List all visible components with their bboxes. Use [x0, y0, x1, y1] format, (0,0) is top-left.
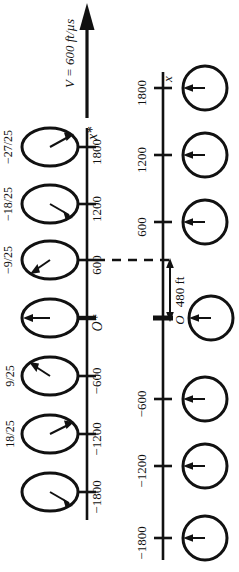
velocity-arrow [80, 3, 95, 118]
unprimed-axis-label: x [160, 76, 175, 83]
unprimed-tick-600: 600 [134, 200, 227, 244]
primed-tick-1200: 1200 −18/25 [1, 185, 104, 223]
primed-fraction-minus1200: 18/25 [3, 420, 17, 447]
unprimed-tick-1200-label: 1200 [134, 147, 149, 173]
primed-fraction-minus600: 9/25 [3, 365, 17, 386]
primed-fraction-1800: −27/25 [1, 130, 15, 164]
primed-origin-label: O* [90, 314, 105, 331]
primed-tick-1200-label: 1200 [89, 196, 104, 222]
unprimed-tick-1200: 1200 [134, 133, 227, 177]
unprimed-tick-minus1800: −1800 [134, 516, 227, 560]
primed-tick-600: 600 −9/25 [1, 241, 104, 279]
unprimed-tick-minus600: −600 [134, 377, 227, 421]
primed-tick-minus600: −600 9/25 [3, 357, 104, 395]
unprimed-tick-1800: 1800 [134, 66, 227, 110]
unprimed-tick-minus1200-label: −1200 [134, 454, 149, 487]
unprimed-origin-label: O [172, 315, 187, 325]
unprimed-tick-minus600-label: −600 [134, 391, 149, 418]
separation-label: 480 ft [172, 276, 187, 307]
primed-fraction-600: −9/25 [1, 246, 15, 274]
unprimed-tick-1800-label: 1800 [134, 80, 149, 106]
unprimed-tick-minus1800-label: −1800 [134, 526, 149, 559]
primed-fraction-1200: −18/25 [1, 187, 15, 221]
primed-tick-minus1200: −1200 18/25 [3, 415, 104, 456]
unprimed-tick-minus1200: −1200 [134, 444, 227, 488]
primed-tick-minus1800-label: −1800 [89, 480, 104, 513]
primed-tick-minus1200-label: −1200 [89, 422, 104, 455]
primed-axis-label: x* [85, 127, 100, 141]
primed-tick-600-label: 600 [89, 255, 104, 275]
relativity-clocks-figure: V = 600 ft/µs x* 1800 −27/25 1200 [0, 0, 239, 572]
unprimed-tick-600-label: 600 [134, 217, 149, 237]
unprimed-system: x 1800 1200 [134, 66, 233, 560]
velocity-label: V = 600 ft/µs [62, 19, 77, 88]
figure-canvas: V = 600 ft/µs x* 1800 −27/25 1200 [0, 0, 239, 572]
primed-tick-1800-label: 1800 [89, 139, 104, 165]
primed-tick-minus600-label: −600 [89, 368, 104, 395]
unprimed-tick-origin: O [153, 296, 233, 340]
primed-tick-origin: O* [22, 299, 105, 337]
primed-tick-minus1800: −1800 [22, 473, 104, 514]
primed-system: V = 600 ft/µs x* 1800 −27/25 1200 [1, 3, 105, 520]
